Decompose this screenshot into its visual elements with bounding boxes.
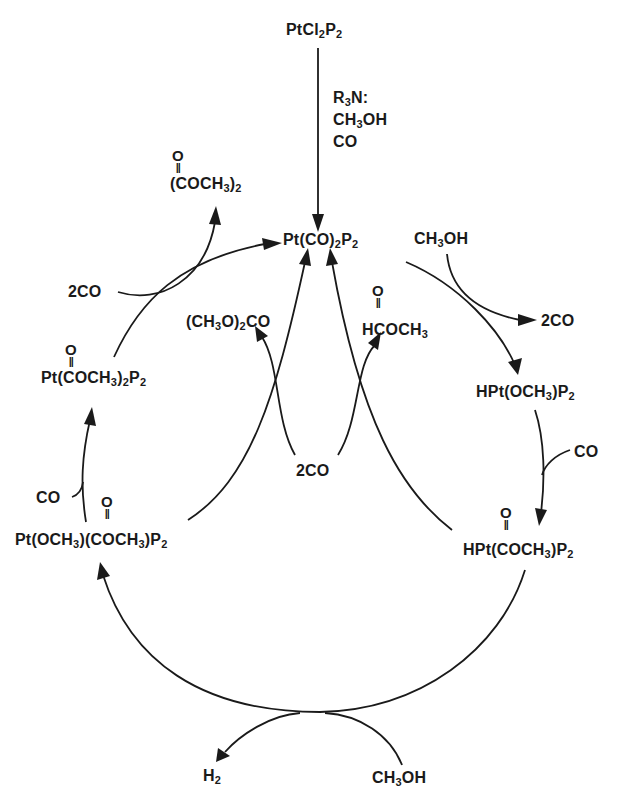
methanol-bottom: CH3OHCH3OH: [372, 770, 426, 788]
cycle-arrow-bottom-arc: [103, 570, 525, 712]
methanol-in-arrow-bottom: [325, 713, 402, 765]
h2-out-arrow: [225, 713, 300, 752]
hydrido-acyl-carbonyl-mark: O||: [500, 505, 512, 528]
hydrido-methoxy-species: HPt(OCH3)P2HPt(OCH3)P2: [476, 384, 575, 402]
co-in-oxalate-out-arrow: [118, 222, 215, 295]
formate-product: HCOCH3HCOCH3: [362, 322, 428, 340]
formate-carbonyl-mark: O||: [372, 283, 384, 306]
cycle-arrow-reductive-elim-left: [114, 244, 265, 357]
co-left-label: 2CO: [68, 284, 102, 300]
arrowhead-icon: [209, 206, 221, 225]
arrowhead-icon: [535, 508, 547, 526]
arrowhead-icon: [326, 248, 338, 266]
arrowhead-icon: [312, 214, 324, 232]
co-released-right: 2CO: [541, 313, 575, 329]
methoxy-acyl-species: Pt(OCH3)(COCH3)P2Pt(OCH3)(COCH3)P2: [15, 532, 167, 550]
carbonate-out-arrow: [262, 337, 295, 455]
catalyst-label: Pt(CO)2P2Pt(CO)2P2: [283, 232, 358, 250]
cycle-arrow-co-insertion-left: [83, 420, 90, 522]
h2-released: H2H2: [203, 768, 221, 786]
co-added-right: CO: [574, 444, 598, 460]
activation-reagent-2: CH3OHCH3OH: [333, 112, 387, 130]
co-added-left: CO: [36, 490, 60, 506]
arrowhead-icon: [518, 314, 537, 326]
co-center-label: 2CO: [296, 463, 330, 479]
oxalate-carbonyl-mark: O||: [172, 148, 184, 171]
co-in-arrow-left: [72, 482, 83, 497]
activation-reagent-3: CO: [333, 134, 357, 150]
oxalate-product: (COCH3)2(COCH3)2: [170, 176, 242, 194]
arrowhead-icon: [508, 358, 522, 375]
methanol-in-arrow: [447, 254, 520, 320]
bisacyl-species: Pt(COCH3)2P2Pt(COCH3)2P2: [41, 370, 146, 388]
hydrido-acyl-species: HPt(COCH3)P2HPt(COCH3)P2: [463, 542, 574, 560]
cycle-arrow-formate-path: [332, 262, 452, 530]
arrowhead-icon: [97, 562, 110, 580]
cycle-arrow-carbonate-path: [188, 262, 305, 520]
carbonate-product: (CH3O)2CO(CH3O)2CO: [186, 314, 270, 332]
activation-reagent-1: R3N:R3N:: [333, 90, 368, 108]
cycle-arrow-co-insertion-right: [535, 410, 543, 513]
precursor-label: PtCl2P2PtCl2P2: [286, 22, 342, 40]
formate-out-arrow: [338, 345, 375, 455]
methoxy-acyl-carbonyl-mark: O||: [101, 494, 113, 517]
arrowhead-icon: [84, 407, 96, 426]
co-in-arrow-right: [542, 450, 570, 475]
bisacyl-carbonyl-mark: O||: [65, 342, 77, 365]
methanol-top-right: CH3OHCH3OH: [414, 231, 468, 249]
arrowhead-icon: [299, 248, 311, 266]
arrowhead-icon: [262, 238, 282, 250]
